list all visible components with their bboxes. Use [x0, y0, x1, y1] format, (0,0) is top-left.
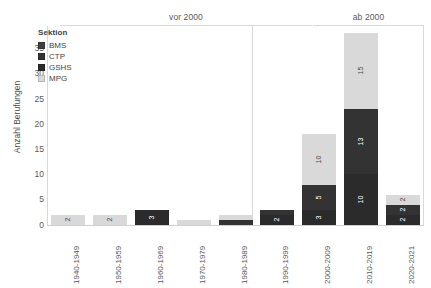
- legend-item-ctp[interactable]: CTP: [38, 51, 100, 62]
- bar-segment-value: 5: [316, 195, 323, 199]
- legend: Sektion BMSCTPGSHSMPG: [38, 28, 100, 84]
- bar-2020-2021[interactable]: 222: [386, 195, 420, 225]
- bar-segment-value: 15: [358, 67, 365, 75]
- legend-title: Sektion: [38, 28, 100, 37]
- bar-segment-value: 3: [148, 215, 155, 219]
- bar-segment-mpg: 15: [344, 33, 378, 109]
- legend-item-label: MPG: [49, 74, 67, 83]
- legend-item-label: BMS: [49, 41, 66, 50]
- bars-layer: 22321053151310222: [47, 26, 424, 225]
- bar-1940-1949[interactable]: 2: [51, 215, 85, 225]
- bar-segment-value: 2: [106, 218, 113, 222]
- y-tick-15: 15: [18, 144, 44, 154]
- x-tick-label: 2010-2019: [365, 246, 374, 284]
- bar-segment-value: 2: [400, 198, 407, 202]
- bar-segment-value: 10: [358, 196, 365, 204]
- panel-header-vor-2000: vor 2000: [60, 8, 312, 26]
- x-tick-label: 2020-2021: [407, 246, 416, 284]
- legend-item-label: CTP: [49, 52, 65, 61]
- bar-1980-1989[interactable]: [219, 215, 253, 225]
- y-tick-5: 5: [18, 194, 44, 204]
- bar-segment-ctp: 5: [302, 185, 336, 210]
- x-tick-label: 2000-2009: [323, 246, 332, 284]
- bar-segment-value: 2: [274, 218, 281, 222]
- bar-segment-ctp: 13: [344, 109, 378, 175]
- bar-1990-1999[interactable]: 2: [260, 210, 294, 225]
- bar-segment-mpg: 2: [51, 215, 85, 225]
- legend-item-gshs[interactable]: GSHS: [38, 62, 100, 73]
- legend-items: BMSCTPGSHSMPG: [38, 40, 100, 84]
- bar-segment-gshs: 2: [386, 215, 420, 225]
- bar-segment-value: 10: [316, 155, 323, 163]
- bar-segment-value: 13: [358, 138, 365, 146]
- x-axis-baseline: [47, 225, 424, 226]
- bar-segment-value: 2: [400, 208, 407, 212]
- x-tick-label: 1960-1969: [156, 246, 165, 284]
- legend-swatch-icon: [38, 75, 45, 82]
- y-tick-20: 20: [18, 119, 44, 129]
- bar-segment-mpg: 2: [386, 195, 420, 205]
- bar-1970-1979[interactable]: [177, 220, 211, 225]
- bar-segment-value: 2: [400, 218, 407, 222]
- x-tick-label: 1980-1989: [240, 246, 249, 284]
- bar-segment-ctp: 2: [386, 205, 420, 215]
- legend-item-bms[interactable]: BMS: [38, 40, 100, 51]
- bar-segment-mpg: [177, 220, 211, 225]
- panel-header-ab-2000: ab 2000: [313, 8, 424, 26]
- bar-segment-mpg: 2: [93, 215, 127, 225]
- x-tick-label: 1990-1999: [281, 246, 290, 284]
- legend-item-mpg[interactable]: MPG: [38, 73, 100, 84]
- bar-segment-value: 2: [64, 218, 71, 222]
- panel-header-strip: vor 2000 ab 2000: [60, 8, 424, 26]
- bar-segment-gshs: 3: [302, 210, 336, 225]
- bar-segment-gshs: 2: [260, 215, 294, 225]
- legend-swatch-icon: [38, 64, 45, 71]
- bar-1950-1959[interactable]: 2: [93, 215, 127, 225]
- bar-segment-ctp: [219, 220, 253, 225]
- legend-item-label: GSHS: [49, 63, 72, 72]
- bar-segment-gshs: 10: [344, 174, 378, 225]
- bar-segment-gshs: 3: [135, 210, 169, 225]
- legend-swatch-icon: [38, 53, 45, 60]
- y-tick-10: 10: [18, 169, 44, 179]
- bar-segment-value: 3: [316, 215, 323, 219]
- x-tick-label: 1970-1979: [198, 246, 207, 284]
- bar-1960-1969[interactable]: 3: [135, 210, 169, 225]
- bar-2000-2009[interactable]: 1053: [302, 134, 336, 225]
- x-tick-label: 1940-1949: [72, 246, 81, 284]
- bar-2010-2019[interactable]: 151310: [344, 33, 378, 225]
- x-tick-label: 1950-1959: [114, 246, 123, 284]
- y-tick-25: 25: [18, 94, 44, 104]
- chart-container: vor 2000 ab 2000 Anzahl Berufungen 0 5 1…: [0, 0, 431, 288]
- y-tick-0: 0: [18, 220, 44, 230]
- legend-swatch-icon: [38, 42, 45, 49]
- bar-segment-mpg: 10: [302, 134, 336, 185]
